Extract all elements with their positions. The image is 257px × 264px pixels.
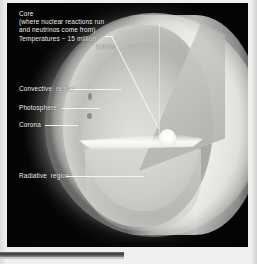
core-nugget — [159, 129, 176, 147]
label-convective-region: Convective region — [19, 85, 75, 93]
label-radiative-region: Radiative region — [19, 172, 70, 180]
label-core-line3: and neutrinos come from) — [19, 26, 95, 33]
label-core-line4: Temperatures ~ 15 million — [19, 35, 96, 42]
label-core-line5: kelvins — [19, 43, 139, 51]
leader-line-radiative — [66, 176, 144, 177]
label-photosphere: Photosphere — [19, 104, 57, 112]
label-core-line1: Core — [19, 10, 33, 17]
label-core: Core (where nuclear reactions run and ne… — [19, 10, 139, 51]
leader-line-convective — [70, 89, 121, 90]
leader-line-photosphere — [62, 108, 100, 109]
sunspot-mark — [88, 93, 92, 100]
label-core-line2: (where nuclear reactions run — [19, 18, 104, 25]
label-corona: Corona — [19, 121, 41, 129]
sun-diagram-plate: Core (where nuclear reactions run and ne… — [7, 3, 248, 247]
sunspot-mark — [87, 113, 92, 119]
leader-line-corona — [45, 125, 78, 126]
page-rule-bar-shadow — [0, 257, 124, 259]
cutaway-wedge-seam — [159, 23, 160, 141]
